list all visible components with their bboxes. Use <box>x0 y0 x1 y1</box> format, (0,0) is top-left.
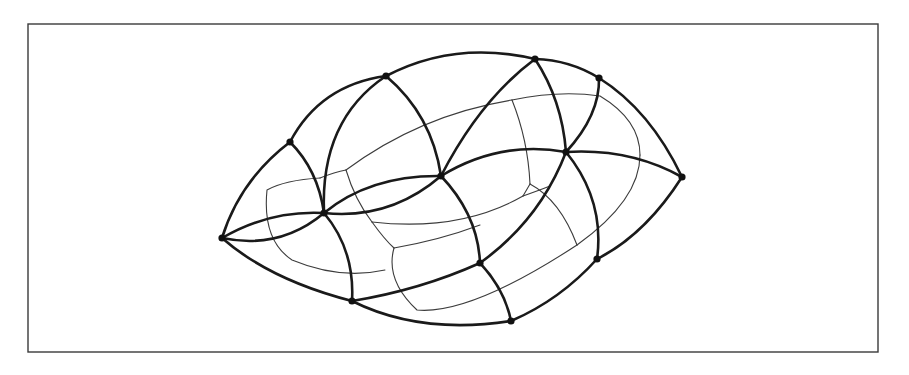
node-C <box>382 72 389 79</box>
outer-top-C-D-curve <box>386 52 535 76</box>
thin-lower-top-curve <box>372 222 394 248</box>
arc-K-G-curve <box>480 152 566 263</box>
node-F <box>678 173 685 180</box>
arc-G-M-curve <box>566 152 598 259</box>
arc-J-K-curve <box>352 263 480 301</box>
thin-upper-v-curve <box>512 100 530 184</box>
thin-upper-band-2-curve <box>512 94 640 155</box>
arc-H-G-curve <box>441 149 566 176</box>
thin-mid-band-curve <box>372 196 523 224</box>
node-I <box>320 209 327 216</box>
outer-bottom-M-L-curve <box>511 259 597 321</box>
node-A <box>218 234 225 241</box>
outer-right-E-F-curve <box>599 78 682 177</box>
arc-B-I-curve <box>290 142 324 213</box>
diagram-canvas <box>0 0 909 375</box>
arc-G-F-curve <box>566 152 682 177</box>
thin-left-cell-curve <box>266 178 385 273</box>
node-H <box>437 172 444 179</box>
arc-C-H-curve <box>386 76 441 176</box>
node-L <box>507 317 514 324</box>
node-M <box>593 255 600 262</box>
node-D <box>531 55 538 62</box>
node-K <box>476 259 483 266</box>
arc-H-D-curve <box>441 59 535 176</box>
arc-G-E-curve <box>566 78 599 152</box>
arc-K-L-curve <box>480 263 511 321</box>
node-E <box>595 74 602 81</box>
node-G <box>562 148 569 155</box>
node-B <box>286 138 293 145</box>
arc-I-J-curve <box>324 213 352 301</box>
node-J <box>348 297 355 304</box>
thin-mid-right-curve <box>530 184 577 245</box>
thin-left-top-curve <box>320 170 346 178</box>
thin-right-outer-curve <box>577 155 640 245</box>
thin-lower-link-curve <box>394 225 480 248</box>
outer-left-lower-curve <box>222 238 352 301</box>
arc-D-G-curve <box>535 59 566 152</box>
outer-bottom-L-J-curve <box>352 301 511 325</box>
thick-mesh-curves <box>222 52 682 325</box>
